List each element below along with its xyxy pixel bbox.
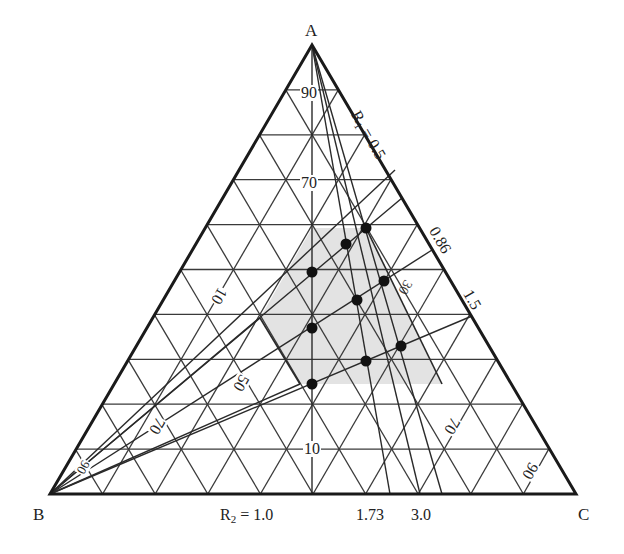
r2-label-3-0: 3.0 <box>411 507 431 523</box>
point <box>361 356 372 367</box>
vertex-b-label: B <box>33 506 44 523</box>
point <box>341 239 352 250</box>
point <box>307 267 318 278</box>
r2-label-1-73: 1.73 <box>356 507 384 523</box>
vertex-a-label: A <box>305 22 317 39</box>
point <box>307 323 318 334</box>
point <box>361 223 372 234</box>
a-tick-90: 90 <box>300 85 318 101</box>
point <box>307 379 318 390</box>
point <box>379 276 390 287</box>
r2-symbol: R <box>220 506 231 523</box>
r2-label-1-0: R2 = 1.0 <box>220 507 273 525</box>
r2-first-value: = 1.0 <box>240 506 273 523</box>
point <box>396 341 407 352</box>
a-tick-10: 10 <box>303 441 321 457</box>
a-tick-70: 70 <box>300 175 318 191</box>
point <box>352 295 363 306</box>
vertex-c-label: C <box>578 506 589 523</box>
r2-subscript: 2 <box>231 513 237 525</box>
